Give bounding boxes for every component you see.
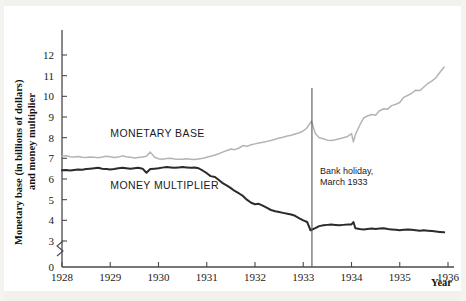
y-axis-title: Monetary base (in billions of dollars) a… (13, 79, 37, 245)
x-axis-title: Year (431, 277, 452, 288)
y-axis-ticks: 03456789101112 (43, 49, 67, 273)
figure-container: Monetary base (in billions of dollars) a… (0, 0, 466, 301)
y-tick-label: 6 (49, 173, 55, 185)
series-label-monetary-base: MONETARY BASE (110, 127, 204, 139)
x-tick-label: 1931 (196, 271, 218, 283)
y-tick-label: 3 (49, 235, 55, 247)
series-line-monetary-base (62, 67, 444, 160)
y-tick-label: 9 (49, 111, 55, 123)
y-tick-label: 12 (43, 49, 54, 61)
series-line-money-multiplier (62, 167, 444, 232)
y-tick-label: 11 (43, 70, 54, 82)
annotation-bank-holiday-line1: Bank holiday, (320, 166, 373, 176)
x-tick-label: 1929 (99, 271, 122, 283)
x-tick-label: 1930 (148, 271, 171, 283)
y-tick-label: 4 (49, 214, 55, 226)
x-tick-label: 1935 (389, 271, 412, 283)
y-tick-label: 5 (49, 194, 55, 206)
y-tick-label: 7 (49, 152, 55, 164)
annotation-bank-holiday-line2: March 1933 (320, 177, 368, 187)
line-chart: Monetary base (in billions of dollars) a… (0, 0, 466, 301)
y-axis-title-line2: and money multiplier (26, 93, 37, 190)
series-label-money-multiplier: MONEY MULTIPLIER (110, 179, 219, 191)
x-tick-label: 1932 (244, 271, 266, 283)
x-tick-label: 1933 (292, 271, 315, 283)
x-tick-label: 1934 (341, 271, 364, 283)
y-tick-label: 10 (43, 90, 55, 102)
y-axis-title-line1: Monetary base (in billions of dollars) (13, 79, 25, 245)
x-axis-ticks: 192819291930193119321933193419351936 (51, 262, 460, 283)
x-tick-label: 1928 (51, 271, 74, 283)
y-tick-label: 8 (49, 132, 55, 144)
